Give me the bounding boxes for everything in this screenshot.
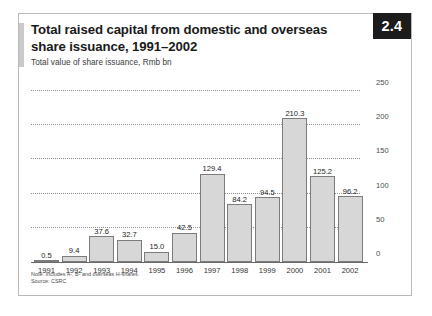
chart-subtitle: Total value of share issuance, Rmb bn xyxy=(31,58,172,67)
x-axis-tick-label: 1997 xyxy=(200,266,225,275)
x-axis-tick-label: 1996 xyxy=(172,266,197,275)
x-axis-tick-label: 2002 xyxy=(338,266,363,275)
note-line: Note: Includes A-, B- and overseas H-sha… xyxy=(31,271,139,279)
title-accent-bar xyxy=(19,23,24,67)
x-axis-tick-label: 1998 xyxy=(227,266,252,275)
x-axis-tick-label: 2001 xyxy=(310,266,335,275)
chart-title: Total raised capital from domestic and o… xyxy=(31,22,331,55)
figure-panel: 2.4 Total raised capital from domestic a… xyxy=(18,13,412,296)
figure-number-badge: 2.4 xyxy=(373,13,411,39)
x-axis-labels: 1991199219931994199519961997199819992000… xyxy=(31,83,401,263)
x-axis-tick-label: 1995 xyxy=(144,266,169,275)
x-axis-tick-label: 1999 xyxy=(255,266,280,275)
source-line: Source: CSRC xyxy=(31,278,139,286)
x-axis-tick-label: 2000 xyxy=(282,266,307,275)
footnotes: Note: Includes A-, B- and overseas H-sha… xyxy=(31,271,139,286)
plot-area: 050100150200250 0.59.437.632.715.042.512… xyxy=(31,83,401,263)
